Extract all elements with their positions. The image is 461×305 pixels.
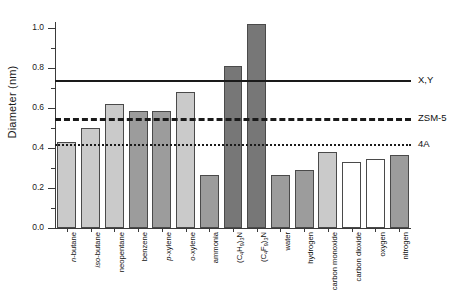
- y-tick-label: 0.6: [0, 103, 44, 112]
- bar--c4f9-3n: [247, 24, 266, 228]
- x-label-n-butane: n-butane: [70, 232, 78, 262]
- y-tick-mark: [48, 68, 55, 69]
- bar-series: [55, 20, 410, 228]
- y-tick-mark: [48, 28, 55, 29]
- x-label-o-xylene: o-xylene: [189, 232, 197, 261]
- reference-label-zsm-5: ZSM-5: [418, 112, 447, 123]
- bar-hydrogen: [295, 170, 314, 228]
- bar-o-xylene: [176, 92, 195, 228]
- reference-label-4a: 4A: [418, 138, 430, 149]
- bar-carbon-monoxide: [318, 152, 337, 228]
- x-label-neopentane: neopentane: [118, 232, 126, 272]
- y-axis-tick-labels: 0.00.20.40.60.81.0: [0, 0, 46, 305]
- bar-nitrogen: [390, 155, 409, 228]
- y-tick-mark: [48, 148, 55, 149]
- bar-benzene: [129, 111, 148, 228]
- x-label-p-xylene: p-xylene: [165, 232, 173, 261]
- bar-carbon-dioxide: [342, 162, 361, 228]
- x-label-carbon-dioxide: carbon dioxide: [355, 232, 363, 281]
- y-tick-mark: [48, 188, 55, 189]
- x-label-carbon-monoxide: carbon monoxide: [331, 232, 339, 290]
- chart-container: Diameter (nm) 0.00.20.40.60.81.0 X,YZSM-…: [0, 0, 461, 305]
- x-label-nitrogen: nitrogen: [402, 232, 410, 259]
- reference-line-x-y: [55, 80, 411, 82]
- x-axis-category-labels: n-butaneiso-butaneneopentanebenzenep-xyl…: [55, 232, 411, 305]
- bar--c4h9-3n: [224, 66, 243, 228]
- bar-ammonia: [200, 175, 219, 228]
- y-tick-mark: [48, 228, 55, 229]
- x-label-iso-butane: iso-butane: [94, 232, 102, 267]
- bar-neopentane: [105, 104, 124, 228]
- reference-label-x-y: X,Y: [418, 74, 433, 85]
- x-label-water: water: [284, 232, 292, 251]
- y-tick-mark: [48, 108, 55, 109]
- x-label-hydrogen: hydrogen: [307, 232, 315, 264]
- x-label-benzene: benzene: [141, 232, 149, 261]
- y-tick-label: 0.0: [0, 223, 44, 232]
- x-label-ammonia: ammonia: [212, 232, 220, 263]
- y-tick-label: 0.4: [0, 143, 44, 152]
- y-tick-label: 1.0: [0, 23, 44, 32]
- x-label--c4h9-3n: (C4H9)3N: [236, 232, 244, 263]
- bar-n-butane: [57, 142, 76, 228]
- x-label--c4f9-3n: (C4F9)3N: [260, 232, 268, 262]
- bar-water: [271, 175, 290, 228]
- reference-line-zsm-5: [55, 118, 411, 121]
- bar-p-xylene: [152, 111, 171, 228]
- y-tick-label: 0.8: [0, 63, 44, 72]
- bar-iso-butane: [81, 128, 100, 228]
- x-label-oxygen: oxygen: [379, 232, 387, 257]
- reference-line-4a: [55, 144, 411, 146]
- bar-oxygen: [366, 159, 385, 228]
- plot-area: [55, 20, 410, 228]
- y-tick-label: 0.2: [0, 183, 44, 192]
